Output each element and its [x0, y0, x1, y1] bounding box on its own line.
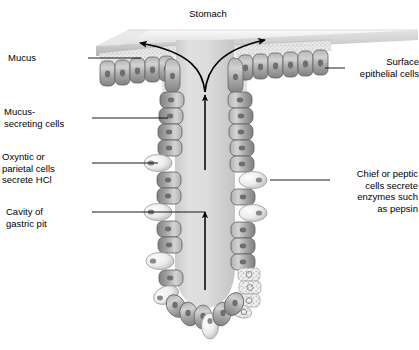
- label-mucus: Mucus: [8, 52, 86, 64]
- chief-cell: [238, 268, 260, 281]
- parietal-cell: [239, 172, 267, 189]
- label-surface-epithelial-cells: Surface epithelial cells: [349, 56, 419, 79]
- label-mucus-secreting-cells: Mucus- secreting cells: [4, 106, 88, 129]
- chief-cell: [239, 281, 261, 294]
- figure-title-stomach: Stomach: [163, 8, 253, 20]
- parietal-cell: [146, 253, 174, 270]
- parietal-cells: [144, 155, 183, 309]
- label-cavity-of-gastric-pit: Cavity of gastric pit: [6, 206, 88, 229]
- label-oxyntic-parietal-cells: Oxyntic or parietal cells secrete HCl: [2, 151, 88, 186]
- label-chief-peptic-cells: Chief or peptic cells secrete enzymes su…: [334, 168, 418, 214]
- parietal-cell: [239, 205, 267, 222]
